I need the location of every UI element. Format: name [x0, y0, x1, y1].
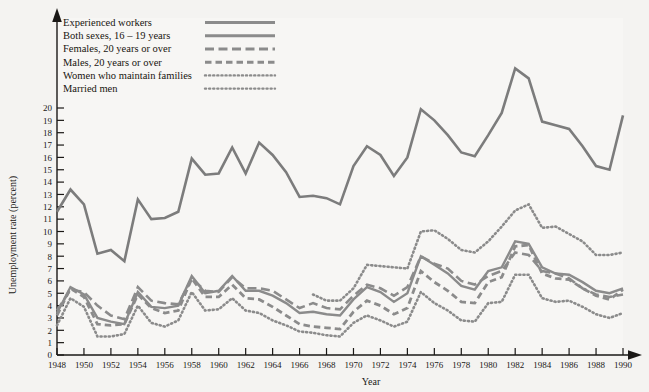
- unemployment-rate-chart: 01234567891011121314151617181920 1948195…: [0, 0, 649, 392]
- legend-item-label: Experienced workers: [63, 17, 152, 28]
- x-tick-label: 1958: [183, 360, 202, 370]
- y-tick-label: 2: [48, 326, 53, 336]
- y-tick-label: 8: [48, 252, 53, 262]
- x-tick-label: 1984: [533, 360, 552, 370]
- y-tick-label: 10: [43, 227, 53, 237]
- y-tick-label: 4: [48, 301, 53, 311]
- y-tick-label: 12: [43, 202, 52, 212]
- x-tick-label: 1988: [587, 360, 606, 370]
- y-tick-label: 14: [43, 177, 53, 187]
- y-tick-label: 6: [48, 276, 53, 286]
- x-tick-label: 1960: [210, 360, 229, 370]
- y-tick-label: 7: [48, 264, 53, 274]
- y-tick-label: 5: [48, 289, 53, 299]
- y-tick-label: 20: [43, 103, 53, 113]
- x-tick-label: 1952: [102, 360, 120, 370]
- y-tick-label: 9: [48, 239, 53, 249]
- x-tick-label: 1972: [371, 360, 389, 370]
- y-axis-title: Unemployment rate (percent): [7, 176, 19, 294]
- legend-item-label: Married men: [63, 83, 118, 94]
- x-tick-label: 1948: [48, 360, 67, 370]
- x-tick-label: 1990: [614, 360, 633, 370]
- y-tick-label: 15: [43, 165, 53, 175]
- y-tick-label: 16: [43, 153, 53, 163]
- y-tick-label: 18: [43, 128, 53, 138]
- plot-area: [57, 18, 623, 355]
- y-tick-label: 0: [48, 350, 53, 360]
- y-tick-label: 1: [48, 338, 53, 348]
- y-tick-label: 19: [43, 116, 53, 126]
- y-tick-label: 11: [43, 214, 52, 224]
- x-tick-label: 1976: [425, 360, 444, 370]
- x-tick-label: 1970: [344, 360, 363, 370]
- x-tick-label: 1980: [479, 360, 498, 370]
- x-tick-label: 1964: [264, 360, 283, 370]
- x-tick-label: 1954: [129, 360, 148, 370]
- chart-canvas: 01234567891011121314151617181920 1948195…: [0, 0, 649, 392]
- x-tick-label: 1986: [560, 360, 579, 370]
- y-tick-label: 13: [43, 190, 53, 200]
- x-tick-label: 1950: [75, 360, 94, 370]
- legend-item-label: Both sexes, 16 – 19 years: [63, 30, 170, 41]
- x-tick-label: 1962: [237, 360, 255, 370]
- legend-item-label: Females, 20 years or over: [63, 43, 172, 54]
- legend-item-label: Males, 20 years or over: [63, 57, 162, 68]
- y-tick-label: 17: [43, 140, 53, 150]
- x-tick-label: 1982: [506, 360, 524, 370]
- x-tick-label: 1956: [156, 360, 175, 370]
- y-tick-label: 3: [48, 313, 53, 323]
- x-tick-label: 1968: [318, 360, 337, 370]
- x-tick-label: 1978: [452, 360, 471, 370]
- x-tick-label: 1966: [291, 360, 310, 370]
- x-axis-title: Year: [362, 376, 381, 387]
- legend-item-label: Women who maintain families: [63, 70, 192, 81]
- x-tick-label: 1974: [398, 360, 417, 370]
